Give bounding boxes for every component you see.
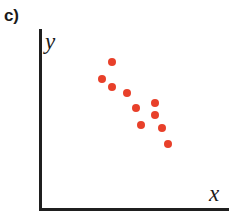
y-axis-label: y (45, 30, 55, 53)
scatter-plot-figure: c) y x (0, 0, 231, 224)
scatter-point (158, 124, 166, 132)
scatter-point (123, 89, 131, 97)
y-axis-line (39, 29, 42, 211)
scatter-point (151, 99, 159, 107)
panel-label: c) (4, 6, 19, 26)
scatter-point (137, 121, 145, 129)
scatter-point (151, 111, 159, 119)
scatter-point (108, 58, 116, 66)
x-axis-label: x (209, 182, 219, 205)
scatter-point (98, 75, 106, 83)
scatter-point (132, 104, 140, 112)
x-axis-line (39, 208, 229, 211)
plot-area (0, 0, 231, 224)
scatter-point (164, 140, 172, 148)
scatter-point (108, 83, 116, 91)
